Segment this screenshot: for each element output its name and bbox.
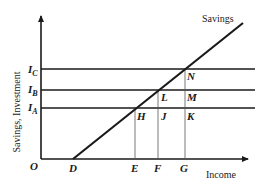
point-label-h: H: [136, 110, 146, 122]
point-label-k: K: [186, 110, 195, 122]
label-ic: IC: [27, 63, 38, 78]
x-axis-title: Income: [206, 169, 237, 180]
svg-text:IA: IA: [27, 101, 38, 116]
point-label-e: E: [130, 162, 138, 174]
label-ib: IB: [27, 83, 38, 98]
point-label-f: F: [153, 162, 162, 174]
origin-label: O: [30, 160, 38, 172]
svg-text:IC: IC: [27, 63, 38, 78]
label-ia: IA: [27, 101, 38, 116]
point-label-j: J: [160, 110, 167, 122]
point-label-n: N: [186, 70, 196, 82]
savings-investment-diagram: Savings Savings, Investment Income IC IB…: [0, 0, 269, 186]
point-label-d: D: [68, 162, 77, 174]
point-label-m: M: [186, 91, 198, 103]
svg-text:IB: IB: [27, 83, 38, 98]
savings-curve-label: Savings: [202, 13, 234, 24]
point-label-g: G: [180, 162, 188, 174]
y-axis-title: Savings, Investment: [11, 71, 22, 152]
point-label-l: L: [160, 91, 168, 103]
